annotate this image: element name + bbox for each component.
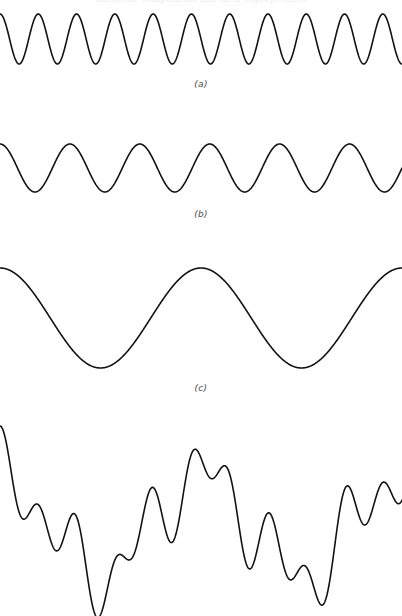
panel-label-c: (c) (0, 383, 402, 393)
wave-path-c (0, 268, 402, 368)
wave-path-a (0, 14, 402, 64)
panel-label-b: (b) (0, 209, 402, 219)
panel-label-a: (a) (0, 79, 402, 89)
wave-path-d (0, 426, 402, 616)
wave-curve-c (0, 250, 402, 400)
figure-root: harmonic components and their superposit… (0, 0, 402, 616)
wave-curve-d (0, 420, 402, 616)
wave-path-b (0, 144, 402, 192)
panel-c-low-frequency (0, 250, 402, 400)
panel-d-superposition (0, 420, 402, 616)
